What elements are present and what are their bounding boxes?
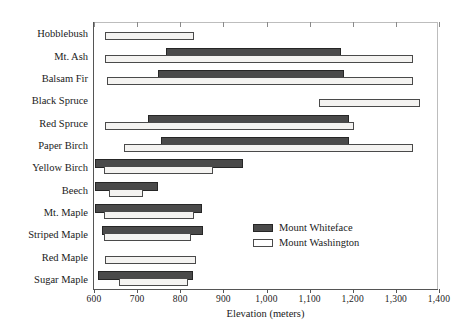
x-tick-mark xyxy=(396,289,397,293)
x-tick-label: 900 xyxy=(216,294,231,304)
bar-washington xyxy=(319,99,420,107)
category-label: Sugar Maple xyxy=(34,273,88,284)
legend-swatch-whiteface xyxy=(253,224,273,232)
x-tick-mark xyxy=(353,289,354,293)
x-tick-mark-top xyxy=(223,22,224,27)
chart-legend: Mount Whiteface Mount Washington xyxy=(253,222,359,252)
legend-item-whiteface: Mount Whiteface xyxy=(253,222,359,233)
category-label: Yellow Birch xyxy=(32,162,88,173)
x-tick-mark-top xyxy=(94,22,95,27)
bar-washington xyxy=(124,144,413,152)
x-tick-label: 1,200 xyxy=(342,294,364,304)
category-label: Mt. Maple xyxy=(44,206,88,217)
category-label: Red Spruce xyxy=(39,117,88,128)
bar-washington xyxy=(105,32,194,40)
legend-swatch-washington xyxy=(253,239,273,247)
plot-right-border xyxy=(437,22,438,289)
bar-washington xyxy=(105,256,196,264)
x-tick-mark-top xyxy=(439,22,440,27)
x-tick-mark xyxy=(267,289,268,293)
category-label: Beech xyxy=(62,184,88,195)
x-tick-label: 600 xyxy=(87,294,102,304)
bar-washington xyxy=(104,211,194,219)
x-tick-mark-top xyxy=(267,22,268,27)
category-label: Mt. Ash xyxy=(54,50,88,61)
x-tick-label: 700 xyxy=(130,294,145,304)
bar-washington xyxy=(104,166,213,174)
x-tick-label: 1,000 xyxy=(255,294,277,304)
x-tick-mark-top xyxy=(310,22,311,27)
x-tick-mark xyxy=(310,289,311,293)
bar-washington xyxy=(104,233,191,241)
x-tick-mark xyxy=(180,289,181,293)
x-tick-mark xyxy=(223,289,224,293)
bar-washington xyxy=(119,278,188,286)
category-label: Black Spruce xyxy=(32,95,88,106)
category-label: Balsam Fir xyxy=(42,72,88,83)
category-label: Red Maple xyxy=(42,251,88,262)
x-tick-mark-top xyxy=(180,22,181,27)
legend-label-whiteface: Mount Whiteface xyxy=(279,222,353,233)
x-axis-title: Elevation (meters) xyxy=(93,308,438,319)
bar-washington xyxy=(107,77,413,85)
x-tick-mark-top xyxy=(396,22,397,27)
x-tick-label: 800 xyxy=(173,294,188,304)
legend-label-washington: Mount Washington xyxy=(279,237,359,248)
legend-item-washington: Mount Washington xyxy=(253,237,359,248)
bar-washington xyxy=(105,122,355,130)
x-tick-label: 1,400 xyxy=(428,294,450,304)
x-tick-mark xyxy=(439,289,440,293)
bar-washington xyxy=(105,55,413,63)
x-tick-mark-top xyxy=(137,22,138,27)
elevation-range-chart: 6007008009001,0001,1001,2001,3001,400 Ho… xyxy=(0,0,458,332)
category-label: Hobblebush xyxy=(37,28,88,39)
x-tick-label: 1,300 xyxy=(385,294,407,304)
bar-washington xyxy=(109,189,143,197)
x-tick-label: 1,100 xyxy=(298,294,320,304)
x-tick-mark-top xyxy=(353,22,354,27)
category-label: Paper Birch xyxy=(38,139,88,150)
x-tick-mark xyxy=(137,289,138,293)
x-tick-mark xyxy=(94,289,95,293)
category-label: Striped Maple xyxy=(28,229,88,240)
